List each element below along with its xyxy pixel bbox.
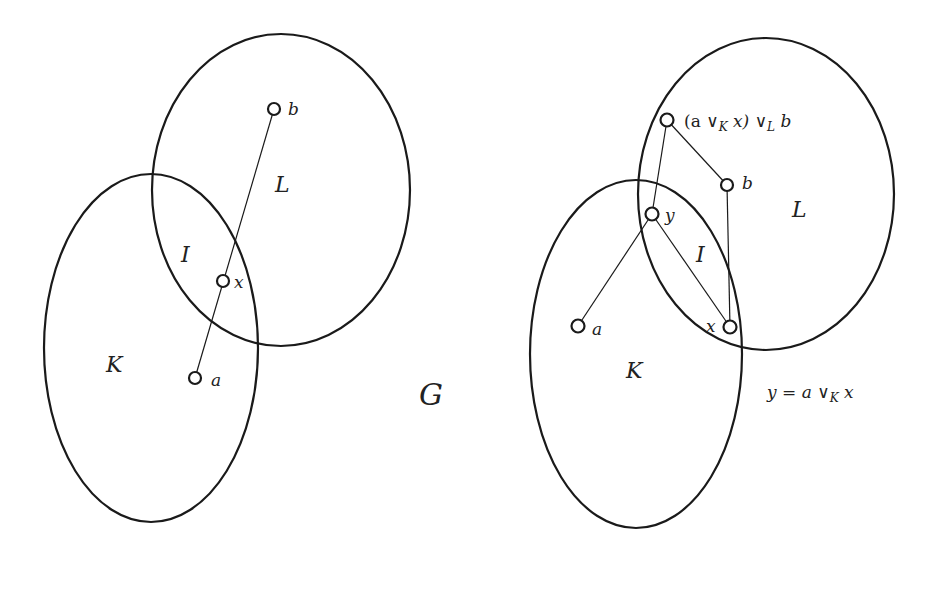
equation-label: y = a ∨K x	[766, 382, 854, 405]
graph-G-label: G	[419, 377, 443, 412]
vertex-a	[189, 372, 201, 384]
edge-y-x	[652, 214, 730, 327]
set-L-label: L	[791, 197, 807, 222]
vertex-join	[661, 114, 674, 127]
set-K-ellipse	[44, 174, 258, 522]
vertex-y-label: y	[664, 205, 675, 225]
diagram-canvas: b x a L K I G (a ∨K x) ∨L b b y a x L K …	[0, 0, 934, 593]
vertex-x	[724, 321, 737, 334]
edge-b-a	[195, 109, 274, 378]
right-diagram: (a ∨K x) ∨L b b y a x L K I y = a ∨K x	[530, 38, 894, 528]
edge-y-a	[578, 214, 652, 326]
edge-b-x	[727, 185, 730, 327]
vertex-a-label: a	[211, 370, 221, 390]
vertex-b	[721, 179, 733, 191]
vertex-b-label: b	[288, 99, 299, 119]
vertex-x-label: x	[234, 272, 244, 292]
vertex-b	[268, 103, 280, 115]
vertex-join-label: (a ∨K x) ∨L b	[684, 111, 791, 134]
set-I-label: I	[695, 242, 706, 267]
set-K-ellipse	[530, 180, 742, 528]
set-K-label: K	[625, 358, 644, 383]
left-diagram: b x a L K I	[44, 34, 410, 522]
vertex-b-label: b	[742, 173, 753, 193]
set-I-label: I	[180, 242, 191, 267]
vertex-a-label: a	[592, 319, 602, 339]
vertex-y	[646, 208, 659, 221]
vertex-x-label: x	[706, 316, 716, 336]
set-K-label: K	[105, 352, 124, 377]
vertex-a	[572, 320, 585, 333]
vertex-x	[217, 275, 229, 287]
set-L-label: L	[274, 172, 290, 197]
edge-top-y	[652, 120, 667, 214]
